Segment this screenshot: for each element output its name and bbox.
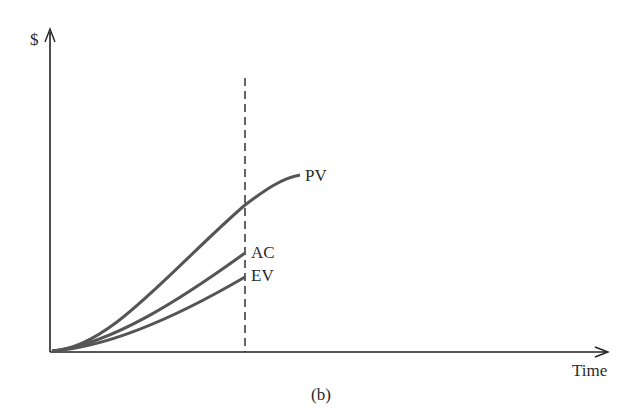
pv-curve [52, 175, 300, 351]
ev-curve [52, 277, 245, 351]
pv-label: PV [305, 167, 327, 184]
chart-canvas [0, 0, 638, 418]
x-axis-label: Time [572, 362, 607, 379]
ac-curve [52, 253, 245, 351]
earned-value-chart: $ PV AC EV Time (b) [0, 0, 638, 418]
ev-label: EV [251, 267, 274, 284]
figure-caption: (b) [311, 386, 331, 403]
y-axis-label: $ [30, 31, 39, 48]
ac-label: AC [251, 244, 275, 261]
